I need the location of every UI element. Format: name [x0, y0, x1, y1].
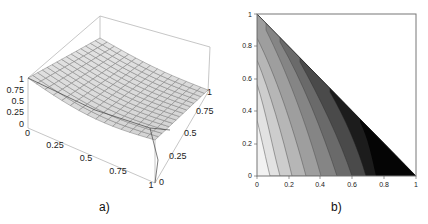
svg-text:0.6: 0.6	[347, 181, 357, 188]
svg-text:0.8: 0.8	[242, 42, 252, 49]
plot-a-z-axis-labels: 1 0.75 0.5 0.25 0	[6, 74, 24, 129]
svg-text:0.2: 0.2	[242, 140, 252, 147]
caption-a: a)	[99, 200, 110, 214]
svg-text:0.25: 0.25	[6, 107, 24, 117]
svg-text:0.4: 0.4	[242, 107, 252, 114]
plot-b-y-axis-labels: 0 0.2 0.4 0.6 0.8 1	[242, 11, 252, 179]
svg-text:0.25: 0.25	[169, 151, 187, 161]
plot-a-surface	[28, 38, 208, 183]
svg-text:1: 1	[19, 74, 24, 84]
svg-text:0: 0	[248, 172, 252, 179]
svg-text:0.25: 0.25	[46, 140, 64, 150]
surface-plot-a: 1 0.75 0.5 0.25 0 0 0.25 0.5 0.75 1 0 0.…	[6, 16, 213, 190]
svg-text:0.75: 0.75	[196, 106, 214, 116]
svg-text:1: 1	[414, 181, 418, 188]
plot-b-contour-bands	[257, 10, 420, 177]
svg-text:0.5: 0.5	[184, 128, 197, 138]
svg-text:1: 1	[248, 11, 252, 18]
plot-b-x-axis-labels: 0 0.2 0.4 0.6 0.8 1	[255, 181, 418, 188]
figure-canvas: 1 0.75 0.5 0.25 0 0 0.25 0.5 0.75 1 0 0.…	[0, 0, 428, 224]
svg-text:0: 0	[25, 128, 30, 138]
svg-text:0.4: 0.4	[315, 181, 325, 188]
svg-text:0: 0	[255, 181, 259, 188]
svg-text:0.8: 0.8	[379, 181, 389, 188]
svg-text:0.75: 0.75	[109, 166, 127, 176]
svg-text:0.5: 0.5	[11, 96, 24, 106]
svg-text:0: 0	[159, 177, 164, 187]
plot-a-x-axis-labels: 0 0.25 0.5 0.75 1	[25, 128, 154, 190]
contour-plot-b: 0 0.2 0.4 0.6 0.8 1 0 0.2 0.4 0.6 0.8 1	[242, 10, 420, 188]
svg-text:0: 0	[19, 119, 24, 129]
svg-text:0.2: 0.2	[284, 181, 294, 188]
svg-text:0.5: 0.5	[80, 153, 93, 163]
svg-text:0.75: 0.75	[6, 85, 24, 95]
caption-b: b)	[331, 200, 342, 214]
svg-text:1: 1	[207, 87, 212, 97]
svg-text:1: 1	[148, 180, 153, 190]
svg-text:0.6: 0.6	[242, 75, 252, 82]
